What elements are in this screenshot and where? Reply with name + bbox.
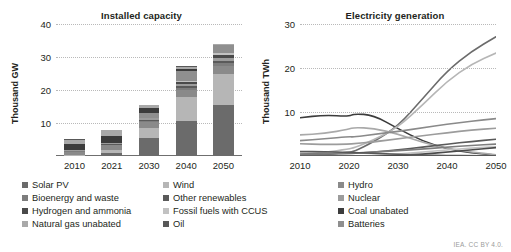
legend-item-batteries[interactable]: Batteries bbox=[338, 217, 408, 230]
y-axis-tick-label: 10 bbox=[40, 118, 51, 129]
plot-area-electricity-generation: 10203020102020203020402050 bbox=[300, 24, 496, 156]
plot-area-installed-capacity: 1020304020102021203020402050 bbox=[56, 24, 242, 156]
legend-column-2: WindOther renewablesFossil fuels with CC… bbox=[163, 178, 268, 230]
bar-2010 bbox=[64, 139, 85, 156]
bar-segment bbox=[176, 121, 197, 156]
x-axis-tick-label: 2030 bbox=[138, 160, 159, 171]
legend-item-label: Oil bbox=[173, 219, 184, 229]
legend-item-hydrogen-and-ammonia[interactable]: Hydrogen and ammonia bbox=[22, 204, 131, 217]
y-axis-tick-label: 10 bbox=[284, 107, 295, 118]
legend-swatch-icon bbox=[163, 195, 169, 201]
legend-swatch-icon bbox=[22, 195, 28, 201]
x-axis-tick-label: 2040 bbox=[436, 160, 457, 171]
bar-segment bbox=[176, 90, 197, 97]
legend-item-other-renewables[interactable]: Other renewables bbox=[163, 191, 268, 204]
legend-item-label: Batteries bbox=[348, 219, 385, 229]
y-axis-tick-label: 40 bbox=[40, 19, 51, 30]
legend-item-label: Coal unabated bbox=[348, 206, 408, 216]
legend-item-wind[interactable]: Wind bbox=[163, 178, 268, 191]
legend-swatch-icon bbox=[338, 195, 344, 201]
bar-2040 bbox=[176, 66, 197, 156]
x-axis-tick-label: 2050 bbox=[485, 160, 506, 171]
x-axis-tick-label: 2010 bbox=[289, 160, 310, 171]
legend-column-1: Solar PVBioenergy and wasteHydrogen and … bbox=[22, 178, 131, 230]
legend-item-label: Hydrogen and ammonia bbox=[32, 206, 131, 216]
legend-swatch-icon bbox=[338, 208, 344, 214]
legend-item-label: Solar PV bbox=[32, 180, 69, 190]
bar-segment bbox=[213, 45, 234, 53]
x-axis-tick-label: 2030 bbox=[387, 160, 408, 171]
legend-item-label: Natural gas unabated bbox=[32, 219, 121, 229]
x-axis-tick-label: 2021 bbox=[101, 160, 122, 171]
legend-item-label: Nuclear bbox=[348, 193, 380, 203]
bar-2021 bbox=[101, 130, 122, 156]
gridline bbox=[56, 24, 242, 25]
bar-segment bbox=[101, 136, 122, 143]
legend-item-label: Bioenergy and waste bbox=[32, 193, 119, 203]
legend-item-hydro[interactable]: Hydro bbox=[338, 178, 408, 191]
legend-item-label: Other renewables bbox=[173, 193, 246, 203]
y-axis-tick-label: 30 bbox=[284, 19, 295, 30]
copyright-credit: IEA. CC BY 4.0. bbox=[454, 241, 503, 248]
bar-2050 bbox=[213, 44, 234, 156]
y-axis-title-electricity-generation: Thousand TWh bbox=[261, 24, 271, 124]
bar-segment bbox=[139, 128, 160, 138]
bar-segment bbox=[176, 71, 197, 81]
legend-item-nuclear[interactable]: Nuclear bbox=[338, 191, 408, 204]
bar-segment bbox=[213, 74, 234, 105]
chart-title-installed-capacity: Installed capacity bbox=[0, 10, 255, 21]
line-series bbox=[300, 119, 496, 141]
legend-item-bioenergy-and-waste[interactable]: Bioenergy and waste bbox=[22, 191, 131, 204]
gridline bbox=[300, 24, 496, 25]
legend-item-natural-gas-unabated[interactable]: Natural gas unabated bbox=[22, 217, 131, 230]
legend-swatch-icon bbox=[163, 208, 169, 214]
chart-legend: Solar PVBioenergy and wasteHydrogen and … bbox=[0, 178, 511, 234]
legend-swatch-icon bbox=[338, 221, 344, 227]
x-axis-tick-label: 2010 bbox=[64, 160, 85, 171]
chart-panel-electricity-generation: Electricity generation Thousand TWh 1020… bbox=[255, 0, 511, 178]
legend-swatch-icon bbox=[338, 182, 344, 188]
legend-item-fossil-fuels-with-ccus[interactable]: Fossil fuels with CCUS bbox=[163, 204, 268, 217]
legend-item-oil[interactable]: Oil bbox=[163, 217, 268, 230]
legend-swatch-icon bbox=[22, 182, 28, 188]
bar-segment bbox=[139, 138, 160, 156]
legend-item-solar-pv[interactable]: Solar PV bbox=[22, 178, 131, 191]
legend-item-label: Hydro bbox=[348, 180, 373, 190]
legend-swatch-icon bbox=[22, 221, 28, 227]
bar-segment bbox=[176, 97, 197, 121]
legend-swatch-icon bbox=[163, 182, 169, 188]
x-axis-tick-label: 2040 bbox=[176, 160, 197, 171]
bar-2030 bbox=[139, 105, 160, 156]
x-axis-tick-label: 2020 bbox=[338, 160, 359, 171]
legend-swatch-icon bbox=[22, 208, 28, 214]
bar-segment bbox=[213, 105, 234, 156]
legend-item-coal-unabated[interactable]: Coal unabated bbox=[338, 204, 408, 217]
line-series-group bbox=[300, 24, 496, 156]
legend-column-3: HydroNuclearCoal unabatedBatteries bbox=[338, 178, 408, 230]
bar-segment bbox=[101, 153, 122, 156]
bar-segment bbox=[213, 66, 234, 74]
gridline bbox=[300, 112, 496, 113]
legend-item-label: Fossil fuels with CCUS bbox=[173, 206, 268, 216]
x-axis-tick-label: 2050 bbox=[213, 160, 234, 171]
gridline bbox=[300, 68, 496, 69]
iea-energy-outlook-figure: Installed capacity Thousand GW 102030402… bbox=[0, 0, 511, 252]
y-axis-tick-label: 20 bbox=[40, 85, 51, 96]
y-axis-tick-label: 20 bbox=[284, 63, 295, 74]
legend-swatch-icon bbox=[163, 221, 169, 227]
y-axis-tick-label: 30 bbox=[40, 52, 51, 63]
y-axis-title-installed-capacity: Thousand GW bbox=[10, 28, 20, 124]
chart-panel-installed-capacity: Installed capacity Thousand GW 102030402… bbox=[0, 0, 255, 178]
legend-item-label: Wind bbox=[173, 180, 194, 190]
